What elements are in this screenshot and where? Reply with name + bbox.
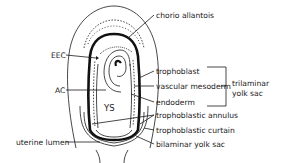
uterine-neck <box>96 150 128 163</box>
vascular-mesoderm-layer <box>94 60 135 126</box>
label-chorio-allantois: chorio allantois <box>156 11 214 20</box>
label-ys: YS <box>103 103 115 113</box>
label-uterine-lumen: uterine lumen <box>16 138 70 147</box>
label-bilaminar-yolk-sac: bilaminar yolk sac <box>156 140 225 149</box>
endoderm-layer <box>97 64 132 128</box>
amnion-dark <box>116 61 121 66</box>
arrowhead-eec <box>96 56 99 60</box>
label-eec: EEC <box>51 51 66 60</box>
leader-endoderm <box>131 94 154 102</box>
diagram: chorio allantois EEC AC YS uterine lumen… <box>0 0 281 163</box>
trophoblastic-annulus-line <box>84 112 144 143</box>
label-trophoblastic-curtain: trophoblastic curtain <box>156 126 235 135</box>
leader-curtain <box>144 128 154 130</box>
label-trilaminar: trilaminar <box>232 79 270 88</box>
label-yolk-sac: yolk sac <box>232 89 263 98</box>
bilaminar-yolk-sac-layer <box>96 130 132 137</box>
yolk-sac-diagram: chorio allantois EEC AC YS uterine lumen… <box>0 0 281 163</box>
leader-annulus-a <box>92 115 154 124</box>
label-endoderm: endoderm <box>156 98 195 107</box>
label-trophoblastic-annulus: trophoblastic annulus <box>156 111 238 120</box>
label-ac: AC <box>55 86 65 95</box>
label-vascular-mesoderm: vascular mesoderm <box>156 82 231 91</box>
leader-eec <box>66 55 96 58</box>
leader-trophoblast <box>139 71 154 78</box>
label-trophoblast: trophoblast <box>156 67 199 76</box>
